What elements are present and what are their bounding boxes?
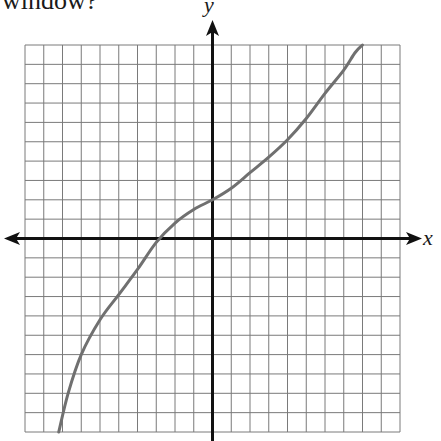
axes xyxy=(4,20,422,441)
coordinate-graph xyxy=(0,0,441,441)
